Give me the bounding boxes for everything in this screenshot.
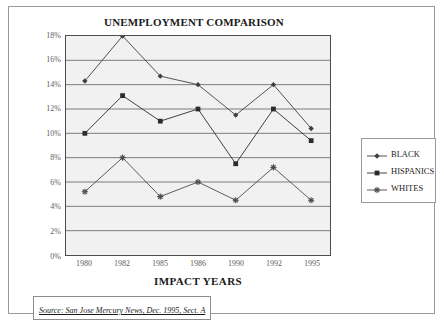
- x-axis-tick: 1980: [64, 259, 104, 268]
- plot-area: [65, 35, 331, 256]
- plot-svg: [66, 36, 330, 255]
- legend-marker-diamond-icon: [366, 148, 388, 160]
- series-line: [85, 96, 311, 164]
- x-axis-tick: 1986: [178, 259, 218, 268]
- x-axis-title: IMPACT YEARS: [65, 275, 331, 287]
- legend-marker-star-icon: [366, 182, 388, 194]
- legend-item-black[interactable]: BLACK: [366, 145, 431, 162]
- legend-label: HISPANICS: [388, 166, 434, 176]
- x-axis-tick: 1995: [292, 259, 332, 268]
- data-point-marker-diamond: [374, 153, 379, 158]
- y-axis-tick: 16%: [15, 55, 61, 64]
- x-axis-tick-labels: 1980198219851986199019921995: [65, 259, 331, 271]
- y-axis-tick: 2%: [15, 227, 61, 236]
- data-point-marker-square: [309, 138, 314, 143]
- legend-label: WHITES: [388, 183, 423, 193]
- legend-item-whites[interactable]: WHITES: [366, 179, 431, 196]
- y-axis-tick: 12%: [15, 104, 61, 113]
- series-whites: [82, 155, 314, 204]
- x-axis-tick: 1985: [140, 259, 180, 268]
- data-point-marker-square: [375, 170, 380, 175]
- source-note-text: Source: San Jose Mercury News, Dec. 1995…: [39, 306, 205, 315]
- series-lines: [82, 36, 314, 203]
- source-note-box: Source: San Jose Mercury News, Dec. 1995…: [33, 296, 211, 320]
- data-point-marker-square: [196, 107, 201, 112]
- y-axis-tick: 8%: [15, 153, 61, 162]
- x-axis-tick: 1982: [102, 259, 142, 268]
- y-axis-tick-labels: 0%2%4%6%8%10%12%14%16%18%: [13, 35, 61, 256]
- data-point-marker-square: [271, 107, 276, 112]
- data-point-marker-star: [270, 164, 276, 170]
- series-black: [82, 36, 314, 131]
- x-axis-tick: 1990: [216, 259, 256, 268]
- data-point-marker-star: [82, 189, 88, 195]
- chart-page: UNEMPLOYMENT COMPARISON 0%2%4%6%8%10%12%…: [0, 0, 444, 323]
- y-axis-tick: 10%: [15, 129, 61, 138]
- data-point-marker-square: [233, 161, 238, 166]
- series-hispanics: [82, 93, 313, 166]
- y-axis-tick: 0%: [15, 252, 61, 261]
- legend-marker-square-icon: [366, 165, 388, 177]
- y-axis-tick: 14%: [15, 80, 61, 89]
- y-axis-tick: 18%: [15, 31, 61, 40]
- figure-frame: UNEMPLOYMENT COMPARISON 0%2%4%6%8%10%12%…: [8, 6, 435, 314]
- data-point-marker-star: [195, 179, 201, 185]
- chart-title: UNEMPLOYMENT COMPARISON: [53, 16, 335, 28]
- data-point-marker-square: [82, 131, 87, 136]
- legend-item-hispanics[interactable]: HISPANICS: [366, 162, 431, 179]
- x-axis-tick: 1992: [254, 259, 294, 268]
- y-axis-tick: 4%: [15, 202, 61, 211]
- chart-legend: BLACKHISPANICSWHITES: [361, 138, 436, 203]
- data-point-marker-square: [158, 119, 163, 124]
- data-point-marker-square: [120, 93, 125, 98]
- legend-label: BLACK: [388, 149, 420, 159]
- data-point-marker-star: [374, 186, 380, 192]
- y-axis-tick: 6%: [15, 178, 61, 187]
